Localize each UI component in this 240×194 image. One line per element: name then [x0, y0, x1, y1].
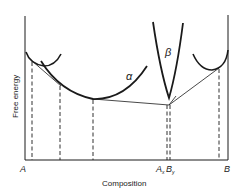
tangent-line-alpha-beta — [93, 99, 169, 105]
tangent-line-beta-right — [169, 68, 219, 105]
tick-label-b: B — [224, 164, 230, 174]
free-energy-diagram: α β Free energy A A x B y B Composition — [0, 0, 240, 194]
tick-label-a: A — [19, 164, 26, 174]
tick-label-ax-sub: x — [161, 169, 165, 175]
alpha-label: α — [126, 70, 133, 82]
beta-label: β — [164, 46, 172, 58]
y-axis-label: Free energy — [11, 75, 20, 118]
x-axis-label: Composition — [102, 179, 146, 188]
tick-label-by-sub: y — [171, 169, 175, 175]
tangent-line-left — [31, 60, 61, 86]
right-terminal-curve — [193, 50, 228, 70]
beta-curve — [153, 22, 183, 98]
tick-label-ax: A — [155, 164, 162, 174]
